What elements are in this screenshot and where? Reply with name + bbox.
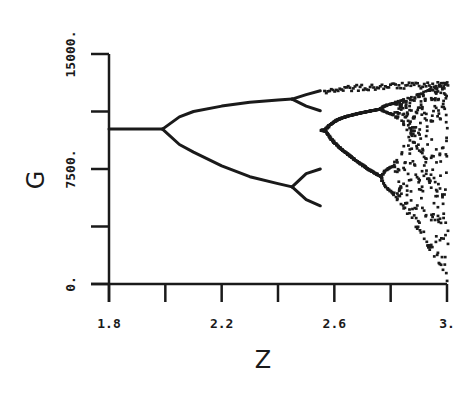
chaos-point [431, 83, 434, 86]
chaos-point [407, 173, 410, 176]
chaos-point [432, 155, 435, 158]
chaos-point [441, 196, 444, 199]
chaos-point [433, 202, 436, 205]
chaos-point [350, 90, 353, 93]
chaos-point [434, 181, 437, 184]
chaos-point [403, 113, 406, 116]
y-tick-label: 7500. [63, 149, 78, 188]
chaos-point [437, 206, 440, 209]
chaos-point [399, 185, 402, 188]
chaos-point [436, 81, 439, 84]
chaos-point [430, 86, 433, 89]
chaos-point [439, 187, 442, 190]
chaos-point [406, 84, 409, 87]
chaos-point [439, 217, 442, 220]
chaos-point [439, 118, 442, 121]
chaos-point [413, 96, 416, 99]
chaos-point [410, 199, 413, 202]
chaos-point [370, 84, 373, 87]
chaos-point [425, 173, 428, 176]
chaos-point [431, 114, 434, 117]
chaos-point [434, 97, 437, 100]
axes: 1.82.22.63.0.7500.15000. [63, 31, 455, 331]
chaos-point [415, 207, 418, 210]
chaos-point [387, 86, 390, 89]
chaos-point [433, 177, 436, 180]
chaos-point [409, 162, 412, 165]
x-axis-label: Z [255, 346, 271, 374]
chaos-point [430, 138, 433, 141]
chaos-point [421, 152, 424, 155]
chaos-point [394, 83, 397, 86]
chaos-point [413, 99, 416, 102]
chaos-point [444, 221, 447, 224]
chaos-point [432, 213, 435, 216]
chaos-point [445, 140, 448, 143]
chaos-point [414, 135, 417, 138]
y-tick-label: 0. [63, 276, 78, 292]
chaos-point [437, 98, 440, 101]
chaos-point [439, 160, 442, 163]
chaos-point [421, 106, 424, 109]
chaos-point [408, 152, 411, 155]
chaos-point [393, 164, 396, 167]
chaos-point [425, 113, 428, 116]
chaos-point [348, 86, 351, 89]
chaos-point [424, 161, 427, 164]
chaos-point [406, 194, 409, 197]
chaos-point [421, 170, 424, 173]
chaos-point [418, 179, 421, 182]
chaos-point [403, 162, 406, 165]
chaos-point [437, 109, 440, 112]
chaos-point [425, 214, 428, 217]
chaos-point [397, 180, 400, 183]
chaos-point [436, 195, 439, 198]
chaos-point [444, 188, 447, 191]
chaos-point [392, 114, 395, 117]
chaos-point [417, 143, 420, 146]
chaos-point [414, 126, 417, 129]
chaos-point [409, 139, 412, 142]
chaos-point [442, 237, 445, 240]
chaos-point [415, 217, 418, 220]
chaos-point [400, 192, 403, 195]
chaos-point [441, 256, 444, 259]
chaos-point [425, 135, 428, 138]
chaos-point [381, 84, 384, 87]
chaos-point [423, 238, 426, 241]
chaos-point [420, 103, 423, 106]
chaos-point [406, 202, 409, 205]
chaos-point [445, 137, 448, 140]
chaos-point [342, 89, 345, 92]
chaos-point [437, 183, 440, 186]
chaos-point [399, 87, 402, 90]
chaos-point [357, 89, 360, 92]
chaos-point [431, 246, 434, 249]
chaos-point [444, 234, 447, 237]
chaos-point [408, 212, 411, 215]
chaos-point [414, 173, 417, 176]
chaos-point [435, 107, 438, 110]
chaos-point [426, 130, 429, 133]
period-2-upper [163, 99, 293, 129]
chaos-point [407, 136, 410, 139]
chaos-point [419, 122, 422, 125]
chaos-point [435, 189, 438, 192]
chaos-point [430, 186, 433, 189]
chaos-point [396, 117, 399, 120]
chaos-point [443, 263, 446, 266]
chaos-point [410, 179, 413, 182]
plot-area [109, 81, 449, 282]
chaos-point [411, 208, 414, 211]
chaos-point [435, 148, 438, 151]
chaos-point [402, 107, 405, 110]
period-4-branches [292, 169, 320, 187]
chaos-point [407, 120, 410, 123]
chaos-point [447, 230, 450, 233]
chaos-point [434, 219, 437, 222]
period-4-branches [292, 91, 320, 99]
chaos-point [436, 254, 439, 257]
chaos-point [420, 231, 423, 234]
chaos-point [430, 219, 433, 222]
chaos-point [381, 177, 384, 180]
